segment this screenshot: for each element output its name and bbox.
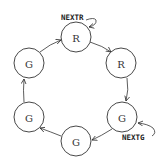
state-node-r-right: R: [106, 48, 136, 78]
state-node-g-bottom-left: G: [14, 102, 44, 132]
state-node-r-top: R: [61, 22, 91, 52]
svg-text:R: R: [72, 33, 80, 44]
svg-text:G: G: [25, 59, 33, 70]
edge-g4-to-g5: [40, 128, 61, 136]
nextr-label: NEXTR: [61, 13, 84, 22]
state-node-g-left: G: [14, 48, 44, 78]
edge-g6-to-r1: [40, 40, 61, 52]
loop-nextr: [86, 19, 96, 28]
edge-r2-to-g3: [126, 78, 128, 101]
state-diagram: R R G G G G NEXTR NEXTG: [0, 0, 167, 166]
svg-text:G: G: [72, 137, 80, 148]
nextg-label: NEXTG: [122, 133, 145, 142]
svg-text:R: R: [117, 59, 125, 70]
edge-g5-to-g6: [24, 79, 25, 102]
edge-g3-to-g4: [92, 129, 112, 140]
edge-r1-to-r2: [90, 42, 111, 52]
svg-text:G: G: [118, 113, 126, 124]
state-node-g-bottom-right: G: [107, 102, 137, 132]
state-node-g-bottom: G: [61, 126, 91, 156]
svg-text:G: G: [25, 113, 33, 124]
